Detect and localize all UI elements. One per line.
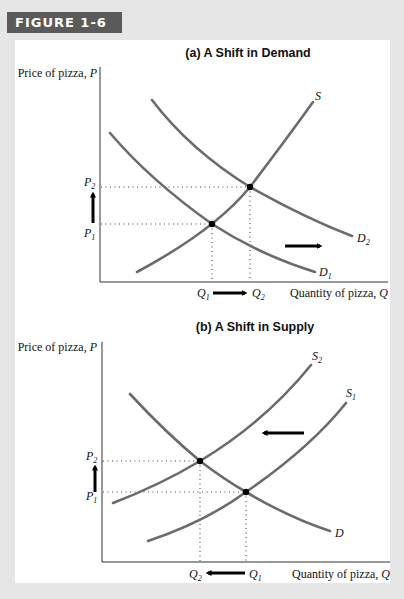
panel-b-x-axis-label: Quantity of pizza, Q [292,567,390,581]
panel-a-demand-shift: (a) A Shift in Demand Price of pizza, P … [18,46,389,302]
panel-a-y-axis-label: Price of pizza, P [18,66,98,80]
panel-a-equilibrium-2 [247,184,253,190]
panel-a-label-s: S [315,89,321,103]
panel-a-title: (a) A Shift in Demand [185,46,310,60]
panel-a-equilibrium-1 [209,221,215,227]
panel-b-label-q1: Q1 [249,567,262,583]
panel-b-supply-shift: (b) A Shift in Supply Price of pizza, P … [18,320,391,583]
panel-b-label-s1: S1 [346,386,356,402]
panel-a-label-d2: D2 [356,231,370,247]
panel-a-label-q2: Q2 [252,286,265,302]
panel-b-label-d: D [334,526,344,540]
panel-a-x-axis-label: Quantity of pizza, Q [290,286,388,300]
panel-a-label-q1: Q1 [197,286,210,302]
panel-b-label-q2: Q2 [189,567,202,583]
panel-b-equilibrium-1 [243,489,249,495]
panel-b-title: (b) A Shift in Supply [196,320,315,334]
panel-b-label-s2: S2 [312,349,322,365]
panel-b-demand-curve-d [130,394,330,531]
panel-a-label-d1: D1 [318,265,332,281]
panel-a-demand-curve-d2 [152,100,352,236]
figure-canvas: (a) A Shift in Demand Price of pizza, P … [0,0,404,599]
panel-b-y-axis-label: Price of pizza, P [18,340,98,354]
panel-a-axes [100,67,388,282]
panel-b-equilibrium-2 [197,458,203,464]
panel-b-label-p2: P2 [85,449,97,465]
panel-b-supply-curve-s1 [148,403,346,541]
panel-a-label-p2: P2 [83,175,95,191]
panel-a-label-p1: P1 [83,226,95,242]
